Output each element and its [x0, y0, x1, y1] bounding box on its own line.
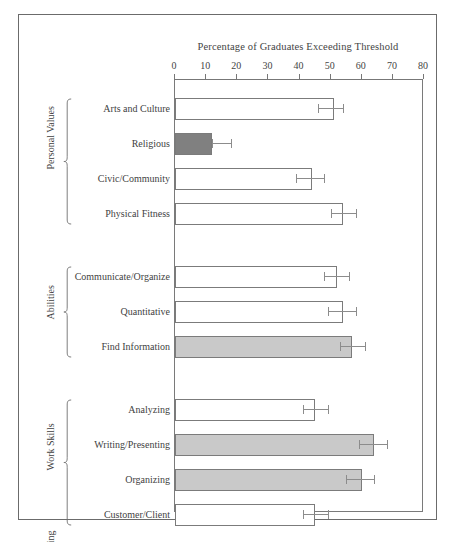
error-bar-cap-high	[356, 209, 357, 218]
error-bar-cap-high	[349, 272, 350, 281]
x-tick-label-80: 80	[418, 60, 428, 71]
error-bar-cap-low	[296, 174, 297, 183]
error-bar-cap-low	[346, 475, 347, 484]
bar-civic-community	[175, 168, 312, 190]
x-tick-label-10: 10	[200, 60, 210, 71]
x-tick-label-20: 20	[231, 60, 241, 71]
error-bar-line	[324, 276, 349, 277]
bar-quantitative	[175, 301, 343, 323]
error-bar-cap-high	[328, 405, 329, 414]
bar-religious	[175, 133, 212, 155]
bar-physical-fitness	[175, 203, 343, 225]
error-bar-cap-low	[359, 440, 360, 449]
error-bar-line	[331, 213, 356, 214]
error-bar-line	[346, 479, 374, 480]
error-bar-cap-high	[343, 104, 344, 113]
error-bar-cap-low	[340, 342, 341, 351]
bar-organizing	[175, 469, 362, 491]
x-tick-mark-80	[423, 74, 424, 79]
bar-row	[175, 98, 424, 120]
error-bar-line	[340, 346, 365, 347]
group-brace	[63, 266, 72, 358]
error-bar-cap-low	[324, 272, 325, 281]
plot-area	[174, 80, 423, 512]
group-brace	[63, 98, 72, 225]
page-bleed-text	[169, 15, 389, 20]
error-bar-line	[212, 143, 231, 144]
error-bar-cap-high	[356, 307, 357, 316]
bar-customer-client	[175, 504, 315, 526]
error-bar-cap-low	[212, 139, 213, 148]
bar-row	[175, 168, 424, 190]
error-bar-cap-low	[328, 307, 329, 316]
x-tick-label-0: 0	[172, 60, 177, 71]
group-label-work-skills: Work Skills	[41, 456, 59, 467]
figure-frame: Percentage of Graduates Exceeding Thresh…	[18, 14, 437, 520]
group-label-abilities: Abilities	[41, 305, 59, 316]
bar-row	[175, 203, 424, 225]
bar-communicate-organize	[175, 266, 337, 288]
bar-row	[175, 133, 424, 155]
error-bar-line	[328, 311, 356, 312]
group-brace	[63, 399, 72, 526]
error-bar-line	[303, 514, 328, 515]
bar-row	[175, 266, 424, 288]
chart-title: Percentage of Graduates Exceeding Thresh…	[174, 41, 422, 52]
bar-row	[175, 504, 424, 526]
error-bar-cap-low	[331, 209, 332, 218]
bar-analyzing	[175, 399, 315, 421]
error-bar-line	[303, 409, 328, 410]
error-bar-cap-low	[303, 510, 304, 519]
x-tick-label-50: 50	[325, 60, 335, 71]
error-bar-cap-high	[374, 475, 375, 484]
error-bar-cap-high	[387, 440, 388, 449]
error-bar-cap-high	[365, 342, 366, 351]
bar-row	[175, 434, 424, 456]
error-bar-cap-high	[231, 139, 232, 148]
error-bar-cap-low	[303, 405, 304, 414]
error-bar-line	[359, 444, 387, 445]
error-bar-line	[296, 178, 324, 179]
error-bar-cap-high	[324, 174, 325, 183]
bar-find-information	[175, 336, 352, 358]
group-label-personal-values: Personal Values	[41, 155, 59, 166]
error-bar-cap-low	[318, 104, 319, 113]
bar-row	[175, 336, 424, 358]
x-tick-label-40: 40	[294, 60, 304, 71]
error-bar-line	[318, 108, 343, 109]
x-tick-label-60: 60	[356, 60, 366, 71]
bar-row	[175, 301, 424, 323]
error-bar-cap-high	[328, 510, 329, 519]
x-tick-label-30: 30	[262, 60, 272, 71]
bar-row	[175, 469, 424, 491]
bar-writing-presenting	[175, 434, 374, 456]
bar-row	[175, 399, 424, 421]
x-tick-label-70: 70	[387, 60, 397, 71]
bar-arts-and-culture	[175, 98, 334, 120]
group-bracket-layer: Personal ValuesAbilitiesWork SkillsLifel…	[41, 80, 81, 512]
